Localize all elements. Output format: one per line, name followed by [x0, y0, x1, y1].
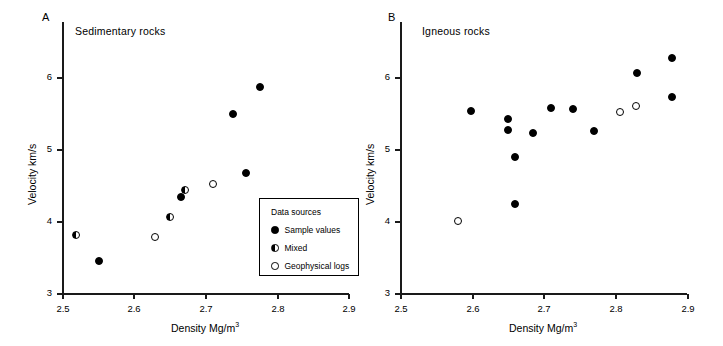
legend-title: Data sources [271, 207, 321, 217]
panel-b-ytick-6 [395, 77, 400, 79]
filled-circle-icon [511, 153, 519, 161]
panel-a-ytick-6 [57, 77, 62, 79]
panel-a-ylabel-4: 4 [34, 215, 52, 226]
legend-label-sample-values: Sample values [285, 225, 341, 235]
panel-b-ylabel-3: 3 [372, 287, 390, 298]
panel-b-y-axis [400, 22, 402, 295]
panel-b-xlabel-28: 2.8 [601, 303, 631, 314]
filled-circle-icon [633, 69, 641, 77]
open-circle-icon [616, 108, 624, 116]
legend-row-geophysical-logs: Geophysical logs [271, 259, 349, 273]
filled-circle-icon [242, 169, 250, 177]
legend-row-mixed: Mixed [271, 241, 307, 255]
open-circle-icon [271, 262, 279, 270]
panel-b-letter: B [388, 11, 396, 23]
panel-a-xlabel-26: 2.6 [119, 303, 149, 314]
panel-a-xtick-25 [62, 294, 64, 299]
panel-b-y-axis-title: Velocity km/s [364, 144, 376, 205]
panel-b-title: Igneous rocks [422, 25, 490, 37]
panel-a-xtick-27 [205, 294, 207, 299]
filled-circle-icon [256, 83, 264, 91]
filled-circle-icon [547, 104, 555, 112]
panel-a-sedimentary: A Sedimentary rocks 6 5 4 3 2.5 2.6 2.7 … [0, 0, 362, 346]
filled-circle-icon [569, 105, 577, 113]
panel-b-x-axis-title: Density Mg/m3 [468, 321, 618, 334]
panel-b-xlabel-26: 2.6 [458, 303, 488, 314]
panel-a-xlabel-25: 2.5 [48, 303, 78, 314]
open-circle-icon [632, 102, 640, 110]
filled-circle-icon [668, 54, 676, 62]
panel-b-xlabel-25: 2.5 [386, 303, 416, 314]
open-circle-icon [209, 180, 217, 188]
half-filled-circle-icon [166, 213, 174, 221]
figure-canvas: A Sedimentary rocks 6 5 4 3 2.5 2.6 2.7 … [0, 0, 723, 346]
panel-b-xtick-27 [543, 294, 545, 299]
filled-circle-icon [590, 127, 598, 135]
panel-b-xlabel-29: 2.9 [673, 303, 703, 314]
panel-b-ylabel-4: 4 [372, 215, 390, 226]
panel-a-ytick-4 [57, 221, 62, 223]
panel-a-xlabel-27: 2.7 [191, 303, 221, 314]
panel-b-ylabel-6: 6 [372, 71, 390, 82]
filled-circle-icon [511, 200, 519, 208]
half-filled-circle-icon [72, 231, 80, 239]
panel-a-title: Sedimentary rocks [75, 25, 165, 37]
panel-a-ytick-5 [57, 149, 62, 151]
open-circle-icon [151, 233, 159, 241]
panel-a-y-axis [62, 22, 64, 295]
panel-b-igneous: B Igneous rocks 6 5 4 3 2.5 2.6 2.7 2.8 … [361, 0, 723, 346]
panel-b-xtick-25 [400, 294, 402, 299]
panel-a-xtick-29 [348, 294, 350, 299]
filled-circle-icon [95, 257, 103, 265]
filled-circle-icon [529, 129, 537, 137]
panel-a-ylabel-6: 6 [34, 71, 52, 82]
open-circle-icon [454, 217, 462, 225]
legend-label-geophysical-logs: Geophysical logs [285, 261, 350, 271]
panel-b-ytick-5 [395, 149, 400, 151]
legend-label-mixed: Mixed [285, 243, 308, 253]
panel-a-xtick-26 [133, 294, 135, 299]
filled-circle-icon [668, 93, 676, 101]
panel-a-xtick-28 [277, 294, 279, 299]
panel-a-xlabel-29: 2.9 [334, 303, 364, 314]
panel-a-letter: A [42, 11, 50, 23]
filled-circle-icon [504, 126, 512, 134]
legend-row-sample-values: Sample values [271, 223, 340, 237]
panel-b-ytick-4 [395, 221, 400, 223]
filled-circle-icon [177, 193, 185, 201]
panel-a-xlabel-28: 2.8 [263, 303, 293, 314]
panel-b-xtick-29 [687, 294, 689, 299]
filled-circle-icon [467, 107, 475, 115]
half-filled-circle-icon [271, 244, 279, 252]
filled-circle-icon [229, 110, 237, 118]
legend-box: Data sources Sample values Mixed Geophys… [259, 198, 359, 276]
panel-a-ylabel-3: 3 [34, 287, 52, 298]
panel-b-xtick-28 [615, 294, 617, 299]
panel-b-xlabel-27: 2.7 [529, 303, 559, 314]
half-filled-circle-icon [181, 186, 189, 194]
panel-b-xtick-26 [472, 294, 474, 299]
filled-circle-icon [271, 226, 279, 234]
filled-circle-icon [504, 115, 512, 123]
panel-a-x-axis-title: Density Mg/m3 [130, 321, 280, 334]
panel-a-y-axis-title: Velocity km/s [26, 144, 38, 205]
